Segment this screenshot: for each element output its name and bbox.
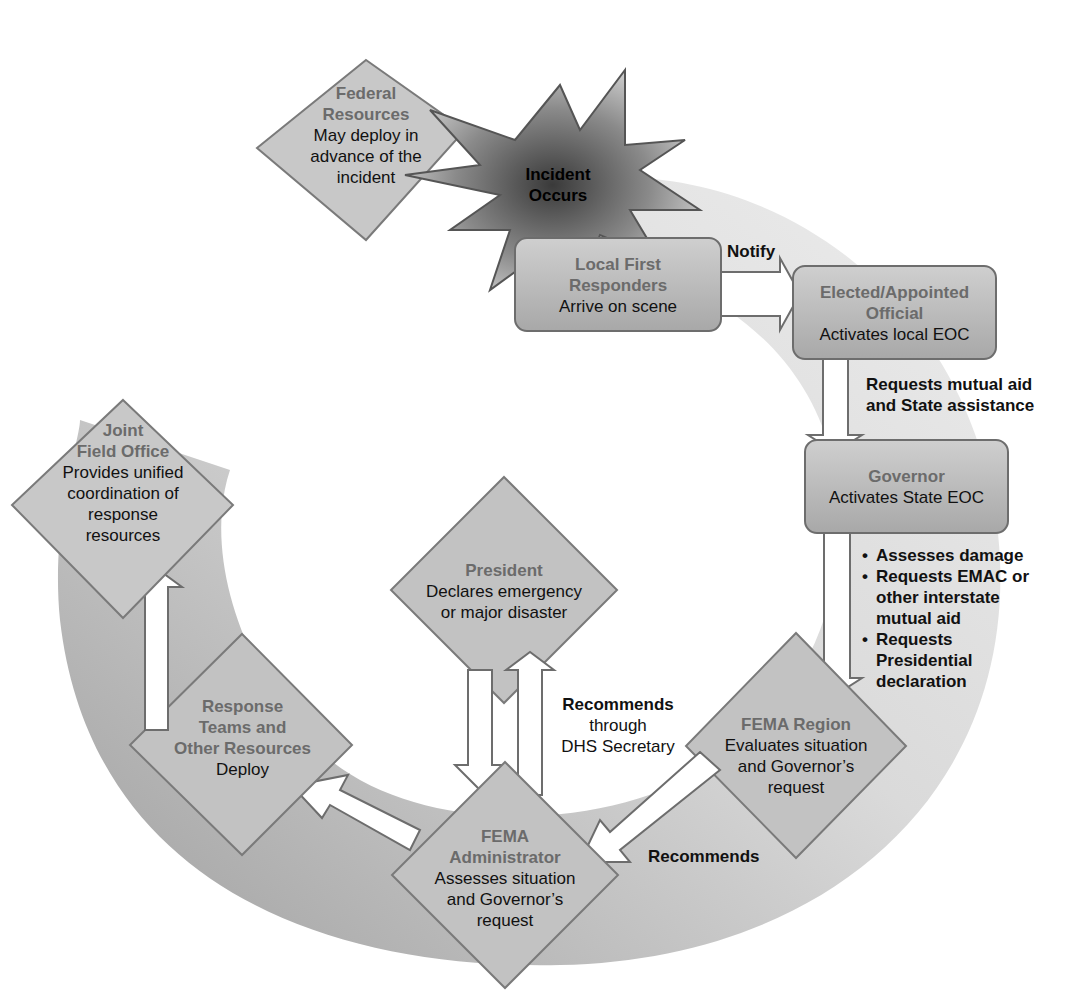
jfo-desc-line3: response (40, 504, 206, 525)
federal-title-line1: Federal (276, 83, 456, 104)
mutual-aid-line2: and State assistance (866, 395, 1034, 416)
local-desc: Arrive on scene (515, 296, 721, 317)
elected-title-line2: Official (793, 303, 996, 324)
fema-admin-desc-line3: request (405, 910, 605, 931)
elected-desc: Activates local EOC (793, 324, 996, 345)
governor-action-item: RequestsPresidentialdeclaration (860, 629, 1080, 692)
president-label: President Declares emergency or major di… (404, 560, 604, 623)
federal-desc-line2: advance of the (276, 146, 456, 167)
fema-administrator-label: FEMA Administrator Assesses situation an… (405, 826, 605, 931)
local-title-line2: Responders (515, 275, 721, 296)
notify-label: Notify (727, 241, 775, 262)
response-desc: Deploy (140, 759, 345, 780)
incident-line1: Incident (508, 164, 608, 185)
elected-title-line1: Elected/Appointed (793, 282, 996, 303)
president-desc-line2: or major disaster (404, 602, 604, 623)
joint-field-office-label: Joint Field Office Provides unified coor… (40, 420, 206, 546)
fema-region-desc-line3: request (700, 777, 892, 798)
incident-label: Incident Occurs (508, 164, 608, 206)
fema-admin-title-line2: Administrator (405, 847, 605, 868)
response-teams-label: Response Teams and Other Resources Deplo… (140, 696, 345, 780)
federal-desc-line1: May deploy in (276, 125, 456, 146)
response-title-line2: Teams and (140, 717, 345, 738)
fema-region-desc-line2: and Governor’s (700, 756, 892, 777)
jfo-desc-line2: coordination of (40, 483, 206, 504)
admin-recommends-line2: through (548, 715, 688, 736)
president-title: President (404, 560, 604, 581)
mutual-aid-label: Requests mutual aid and State assistance (866, 374, 1034, 416)
region-recommends-label: Recommends (648, 846, 759, 867)
admin-recommends-bold: Recommends (548, 694, 688, 715)
mutual-aid-line1: Requests mutual aid (866, 374, 1034, 395)
response-title-line1: Response (140, 696, 345, 717)
fema-region-label: FEMA Region Evaluates situation and Gove… (700, 714, 892, 798)
fema-admin-desc-line2: and Governor’s (405, 889, 605, 910)
response-title-line3: Other Resources (140, 738, 345, 759)
governor-action-item: Requests EMAC orother interstatemutual a… (860, 566, 1080, 629)
admin-recommends-line3: DHS Secretary (548, 736, 688, 757)
fema-region-title: FEMA Region (700, 714, 892, 735)
governor-actions-list: Assesses damage Requests EMAC orother in… (860, 545, 1080, 692)
federal-title-line2: Resources (276, 104, 456, 125)
jfo-title-line1: Joint (40, 420, 206, 441)
incident-line2: Occurs (508, 185, 608, 206)
jfo-desc-line4: resources (40, 525, 206, 546)
jfo-desc-line1: Provides unified (40, 462, 206, 483)
admin-recommends-label: Recommends through DHS Secretary (548, 694, 688, 757)
governor-title: Governor (805, 466, 1008, 487)
fema-region-desc-line1: Evaluates situation (700, 735, 892, 756)
fema-admin-title-line1: FEMA (405, 826, 605, 847)
governor-label: Governor Activates State EOC (805, 466, 1008, 508)
federal-resources-label: Federal Resources May deploy in advance … (276, 83, 456, 188)
fema-admin-desc-line1: Assesses situation (405, 868, 605, 889)
federal-desc-line3: incident (276, 167, 456, 188)
governor-action-item: Assesses damage (860, 545, 1080, 566)
president-desc-line1: Declares emergency (404, 581, 604, 602)
local-first-responders-label: Local First Responders Arrive on scene (515, 254, 721, 317)
elected-official-label: Elected/Appointed Official Activates loc… (793, 282, 996, 345)
governor-desc: Activates State EOC (805, 487, 1008, 508)
jfo-title-line2: Field Office (40, 441, 206, 462)
local-title-line1: Local First (515, 254, 721, 275)
